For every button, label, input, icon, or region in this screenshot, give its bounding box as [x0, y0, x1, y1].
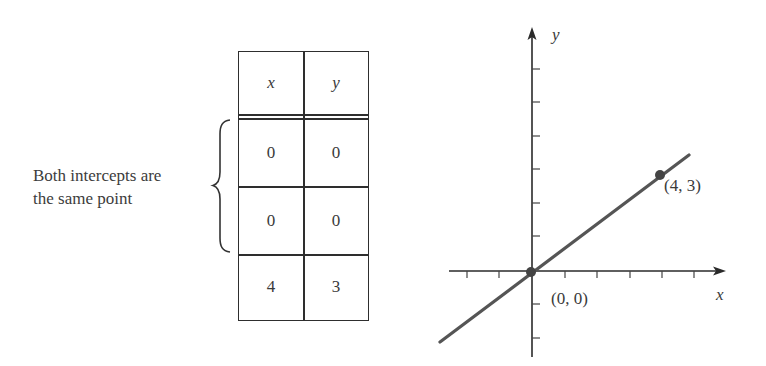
cell-r2-y: 0: [304, 187, 368, 254]
diagram-canvas: [0, 0, 766, 366]
x-axis-label: x: [716, 285, 724, 305]
cell-r2-x: 0: [239, 187, 303, 254]
point-origin: [526, 267, 536, 277]
y-axis: [528, 27, 541, 357]
cell-r1-x: 0: [239, 119, 303, 186]
y-axis-label: y: [552, 25, 560, 45]
x-axis: [449, 267, 726, 279]
cell-r1-y: 0: [304, 119, 368, 186]
point-label-4-3: (4, 3): [664, 176, 701, 196]
point-label-origin: (0, 0): [551, 289, 588, 309]
xy-table: x y 0 0 0 0 4 3: [238, 51, 369, 321]
cell-r3-y: 3: [304, 255, 368, 319]
curly-brace: [213, 120, 230, 252]
cell-r3-x: 4: [239, 255, 303, 319]
header-divider-top: [239, 114, 368, 116]
plotted-line: [440, 155, 689, 342]
header-x: x: [239, 52, 303, 114]
header-y: y: [304, 52, 368, 114]
